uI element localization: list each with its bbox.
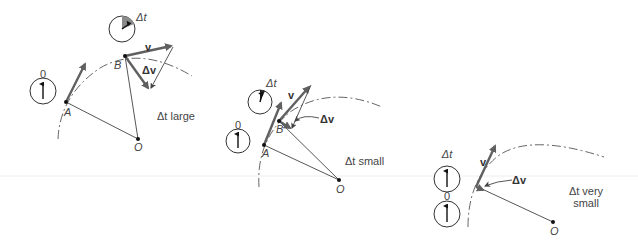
radius-a (66, 102, 138, 139)
velocity-label: v (480, 156, 487, 168)
velocity-label: v (288, 89, 295, 101)
clock-start-icon (226, 129, 250, 153)
clock-start-icon (30, 78, 56, 104)
point-a (64, 100, 68, 104)
center-point (551, 220, 555, 224)
clock-elapsed-icon (434, 166, 460, 192)
radius-b (125, 56, 138, 139)
panel-caption: Δt small (345, 155, 384, 167)
point-b-label: B (276, 123, 283, 135)
panel-dt-large: 0 Δt A B O v Δv Δt large (30, 11, 195, 153)
center-point (337, 178, 341, 182)
radius-a (264, 145, 339, 180)
clock-end-label: Δt (441, 148, 453, 160)
clock-elapsed-icon (109, 16, 135, 42)
panel-caption-line1: Δt very (569, 185, 604, 197)
delta-v-label: Δv (512, 174, 527, 186)
delta-v-pointer (295, 117, 319, 121)
clock-start-label: 0 (444, 190, 450, 202)
clock-elapsed-icon (248, 90, 272, 114)
clock-end-label: Δt (135, 11, 147, 23)
point-a-label: A (261, 147, 269, 159)
delta-v-label: Δv (320, 113, 335, 125)
center-label: O (336, 183, 345, 195)
vector-difference-arrow (292, 85, 311, 128)
circular-path-arc (58, 58, 192, 139)
panel-dt-very-small: Δt 0 O v Δv Δt very small (434, 145, 604, 237)
velocity-vector-a (66, 64, 85, 102)
uniform-circular-motion-diagram: 0 Δt A B O v Δv Δt large 0 Δt A B (0, 0, 638, 247)
point-a-label: A (63, 106, 71, 118)
clock-start-icon (434, 201, 460, 227)
delta-v-vector (476, 187, 483, 190)
clock-start-label: 0 (40, 68, 46, 80)
panel-caption-line2: small (573, 197, 599, 209)
radius (482, 189, 553, 222)
panel-dt-small: 0 Δt A B O v Δv Δt small (226, 77, 384, 195)
point-b-label: B (114, 59, 121, 71)
radius-b (279, 121, 339, 180)
clock-start-label: 0 (235, 119, 241, 131)
center-label: O (550, 225, 559, 237)
velocity-label: v (145, 41, 152, 53)
center-label: O (134, 141, 143, 153)
clock-end-label: Δt (265, 77, 277, 89)
delta-v-pointer (485, 180, 512, 186)
point-b (123, 54, 127, 58)
delta-v-label: Δv (142, 64, 157, 76)
panel-caption: Δt large (157, 110, 195, 122)
